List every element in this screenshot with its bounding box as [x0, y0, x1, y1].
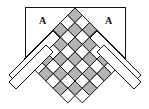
woven-lattice-diagram — [0, 0, 149, 109]
label-a-right: A — [105, 15, 112, 26]
label-a-left: A — [39, 15, 46, 26]
